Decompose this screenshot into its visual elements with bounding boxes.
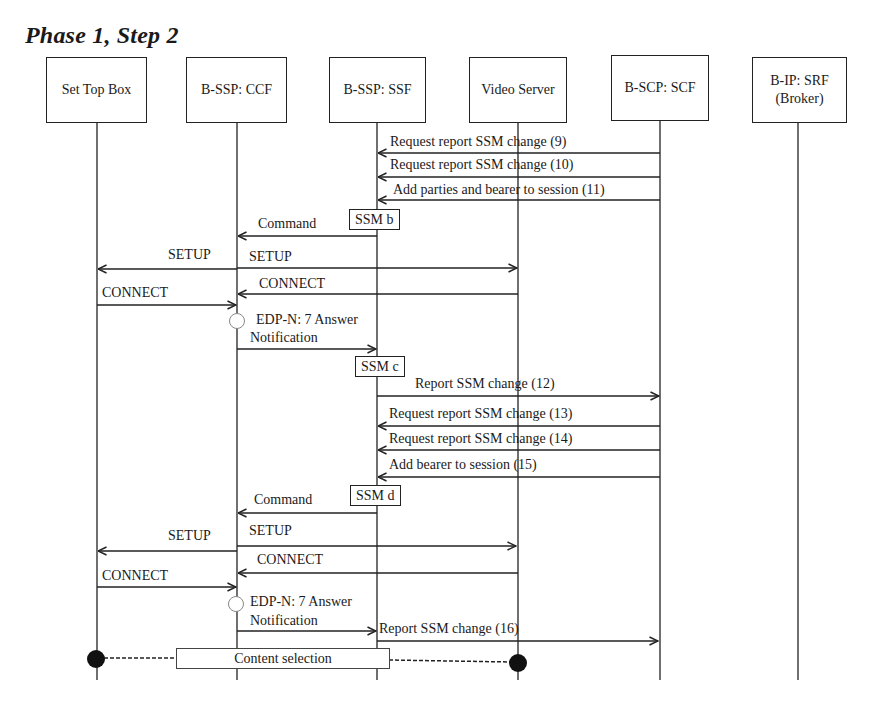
message-label: Command [254, 492, 312, 508]
message-label: Report SSM change (12) [415, 376, 555, 392]
detection-point-circle [228, 596, 244, 612]
message-label: CONNECT [102, 285, 168, 301]
message-label: Request report SSM change (9) [390, 134, 567, 150]
message-label: Request report SSM change (10) [390, 157, 574, 173]
message-label-line1: EDP-N: 7 Answer [250, 594, 352, 610]
message-label: SETUP [249, 523, 292, 539]
state-box-ssm-b: SSM b [349, 209, 400, 230]
sequence-lines [0, 0, 890, 723]
message-label: SETUP [168, 247, 211, 263]
state-box-ssm-c: SSM c [355, 356, 405, 377]
message-label-line2: Notification [250, 613, 318, 629]
message-label: CONNECT [257, 552, 323, 568]
message-label: Command [258, 216, 316, 232]
message-label: Report SSM change (16) [379, 621, 519, 637]
state-box-ssm-d: SSM d [350, 485, 401, 506]
message-label: CONNECT [102, 568, 168, 584]
message-label-line2: Notification [250, 330, 318, 346]
message-label: Request report SSM change (13) [389, 406, 573, 422]
message-label: Add parties and bearer to session (11) [393, 182, 605, 198]
message-label: SETUP [168, 528, 211, 544]
content-selection-box: Content selection [176, 648, 390, 669]
endpoint-dot-video-server [509, 654, 527, 672]
message-label: Add bearer to session (15) [389, 457, 537, 473]
message-label: Request report SSM change (14) [389, 431, 573, 447]
message-label-line1: EDP-N: 7 Answer [256, 312, 358, 328]
detection-point-circle [229, 313, 245, 329]
message-label: CONNECT [259, 276, 325, 292]
endpoint-dot-set-top-box [87, 650, 105, 668]
message-label: SETUP [249, 249, 292, 265]
